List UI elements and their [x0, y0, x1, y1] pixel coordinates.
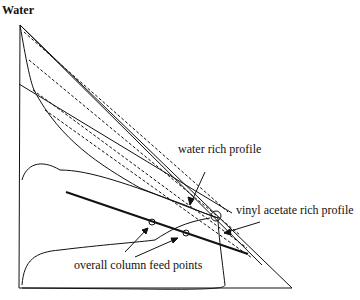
vinyl-acetate-profile-curve — [22, 218, 225, 289]
label-vinyl-acetate-rich-profile: vinyl acetate rich profile — [236, 203, 354, 218]
feed-line — [66, 192, 248, 254]
label-feed-points: overall column feed points — [74, 258, 202, 273]
arrow-feed-2 — [135, 238, 178, 257]
label-water-rich-profile: water rich profile — [178, 142, 261, 157]
phase-envelope-lower — [22, 218, 210, 285]
